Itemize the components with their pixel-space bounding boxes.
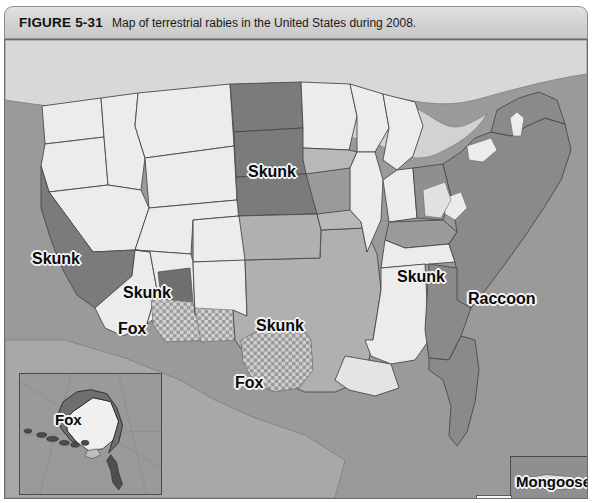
figure-container: FIGURE 5-31 Map of terrestrial rabies in… xyxy=(0,0,595,503)
puerto-rico-inset: Mongoose xyxy=(510,456,588,499)
state-washington xyxy=(42,98,104,144)
figure-caption-bar: FIGURE 5-31 Map of terrestrial rabies in… xyxy=(4,6,588,39)
state-north-dakota xyxy=(230,82,303,132)
alaska-inset-graphic xyxy=(20,374,161,494)
region-new-mexico-fox xyxy=(195,308,235,342)
state-oregon xyxy=(41,137,108,192)
state-indiana xyxy=(383,168,417,222)
state-montana xyxy=(135,84,234,158)
state-new-mexico xyxy=(193,260,247,316)
figure-title: Map of terrestrial rabies in the United … xyxy=(112,16,416,30)
state-nebraska xyxy=(236,174,317,216)
state-kansas xyxy=(238,214,321,260)
state-south-dakota xyxy=(234,128,306,177)
figure-number: FIGURE 5-31 xyxy=(19,15,103,30)
alaska-inset: Fox xyxy=(19,373,162,495)
puerto-rico-inset-graphic xyxy=(511,457,588,499)
rabies-map: Skunk Skunk Skunk Skunk Skunk Fox Fox Ra… xyxy=(4,39,588,499)
region-kentucky-skunk xyxy=(385,220,457,248)
cdc-logo: CDC SAFER·HEALTHIER·PEOPLE xyxy=(476,495,512,499)
state-minnesota xyxy=(301,82,357,150)
